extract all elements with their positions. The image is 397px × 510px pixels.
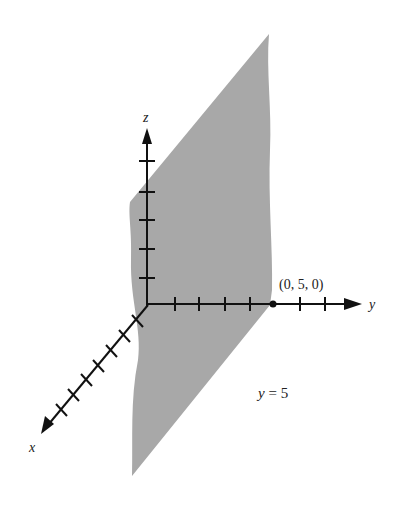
y-axis-label: y [367,297,376,312]
plane-y-equals-5 [129,34,272,476]
point-label: (0, 5, 0) [279,277,324,293]
plane-diagram: z y x (0, 5, 0) y = 5 [0,0,397,510]
x-axis [41,305,148,434]
z-axis-label: z [142,110,149,125]
plane-label: y = 5 [256,385,288,401]
x-axis-label: x [28,440,36,455]
point-0-5-0 [270,301,277,308]
